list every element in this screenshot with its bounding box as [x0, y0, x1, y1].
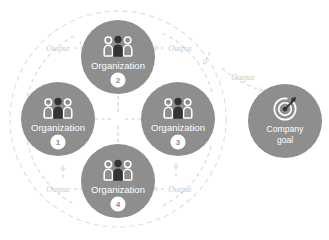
node-label-line2: goal — [277, 135, 293, 145]
node-label: Organization — [151, 122, 205, 133]
flow-label-bottom-right: Output — [168, 185, 192, 194]
node-label: Organization — [31, 122, 85, 133]
flow-label-top-left: Output — [46, 44, 70, 53]
diagram-canvas: Organization 2 Organization 1 Organizati… — [0, 0, 329, 240]
node-organization-2[interactable]: Organization 2 — [81, 20, 155, 94]
flow-arrow-org3-to-org2 — [204, 52, 210, 64]
node-badge-number: 2 — [116, 76, 121, 85]
flow-label-bottom-left: Output — [46, 185, 70, 194]
node-badge-number: 4 — [116, 200, 121, 209]
organization-goal-diagram: Organization 2 Organization 1 Organizati… — [0, 0, 329, 240]
center-exchange-arrows — [89, 87, 147, 151]
node-badge-number: 1 — [56, 138, 61, 147]
node-company-goal[interactable]: Company goal — [248, 84, 322, 158]
node-organization-1[interactable]: Organization 1 — [21, 82, 95, 156]
node-label: Organization — [91, 60, 145, 71]
node-organization-3[interactable]: Organization 3 — [141, 82, 215, 156]
flow-label-to-goal: Output — [231, 73, 255, 82]
node-label: Organization — [91, 184, 145, 195]
node-badge-number: 3 — [176, 138, 181, 147]
node-organization-4[interactable]: Organization 4 — [81, 144, 155, 218]
flow-label-top-right: Output — [168, 44, 192, 53]
node-label-line1: Company — [267, 124, 304, 134]
node-circle — [248, 84, 322, 158]
